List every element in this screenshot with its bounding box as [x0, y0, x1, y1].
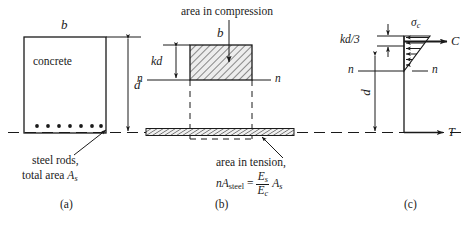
- formula-A-subscript: steel: [229, 182, 244, 191]
- callout-area-subscript: s: [74, 174, 77, 183]
- steel-rods-dots: [35, 124, 103, 128]
- kd-label: kd: [151, 55, 162, 67]
- tension-force-label: T: [448, 126, 455, 139]
- transformed-area-formula: nAsteel=EsEcAs: [216, 171, 282, 199]
- concrete-label: concrete: [33, 56, 72, 68]
- formula-Es-symbol: E: [258, 170, 265, 182]
- panel-c-na-label-left: n: [348, 64, 354, 76]
- steel-rods-leader: [74, 130, 106, 155]
- steel-rods-callout-line2: total area As: [22, 170, 78, 183]
- panel-b-group: [146, 20, 294, 158]
- panel-caption-a: (a): [60, 199, 73, 211]
- compression-area-rect: [190, 45, 252, 80]
- panel-b-width-label: b: [217, 26, 224, 39]
- panel-b-na-label-right: n: [275, 73, 281, 85]
- panel-caption-c: (c): [404, 199, 417, 211]
- kd3-label: kd/3: [340, 34, 360, 46]
- formula-tail-A-subscript: s: [279, 182, 282, 191]
- callout-total-area-text: total area: [22, 169, 67, 181]
- area-in-compression-label: area in compression: [181, 6, 273, 18]
- formula-fraction-denominator: Ec: [256, 185, 269, 198]
- area-in-tension-label: area in tension,: [216, 157, 286, 169]
- figure-root: b concrete d steel rods, total area As a…: [0, 0, 472, 228]
- sigma-c-label: σc: [411, 17, 420, 30]
- formula-Ec-subscript: c: [264, 189, 268, 198]
- panel-c-na-label-right: n: [432, 64, 438, 76]
- compression-force-label: C: [451, 35, 459, 48]
- formula-fraction-numerator: Es: [256, 171, 269, 185]
- steel-rods-callout-line1: steel rods,: [32, 155, 79, 167]
- formula-A-symbol: A: [222, 177, 229, 189]
- tension-callout-leader: [262, 137, 283, 158]
- panel-a-width-label: b: [61, 18, 68, 31]
- formula-equals: =: [247, 177, 254, 189]
- transformed-steel-bar: [146, 129, 294, 136]
- formula-Es-subscript: s: [265, 175, 268, 184]
- panel-c-group: [358, 24, 447, 133]
- panel-c-depth-label: d: [359, 89, 372, 96]
- panel-b-na-label-left: n: [137, 73, 143, 85]
- formula-fraction: EsEc: [256, 171, 269, 199]
- sigma-subscript: c: [417, 21, 421, 30]
- concrete-section-rect: [24, 37, 106, 133]
- panel-caption-b: (b): [215, 199, 228, 211]
